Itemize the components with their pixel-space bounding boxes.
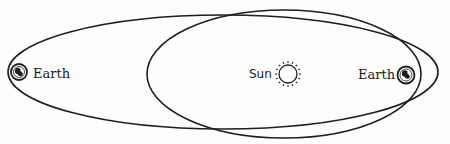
earth-right-icon: [398, 67, 415, 84]
orbit-diagram: Earth Sun Earth: [0, 0, 450, 144]
earth-left-icon: [11, 64, 27, 80]
sun-icon: [275, 61, 301, 87]
sun-label: Sun: [249, 68, 272, 80]
earth-right-label: Earth: [358, 68, 395, 81]
earth-left-label: Earth: [33, 67, 70, 80]
